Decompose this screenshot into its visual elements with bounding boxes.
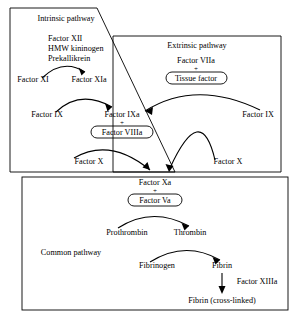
node-factor-viiia: Factor VIIIa bbox=[102, 128, 143, 137]
arrow-x-to-xa-extrinsic bbox=[170, 132, 215, 168]
intrinsic-pathway-label: Intrinsic pathway bbox=[37, 14, 95, 23]
arrow-tf-viia-to-ixa bbox=[145, 95, 260, 111]
node-tissue-factor: Tissue factor bbox=[175, 74, 217, 83]
node-hmw-kininogen: HMW kininogen bbox=[48, 44, 104, 53]
node-prekallikrein: Prekallikrein bbox=[48, 54, 90, 63]
node-factor-xia: Factor XIa bbox=[71, 75, 107, 84]
arrowhead-x-to-xa-intrinsic bbox=[143, 162, 151, 170]
extrinsic-pathway-label: Extrinsic pathway bbox=[167, 41, 227, 50]
node-fibrin: Fibrin bbox=[212, 261, 232, 270]
node-factor-x-extrinsic: Factor X bbox=[214, 157, 243, 166]
cascade-svg-canvas: Intrinsic pathway Extrinsic pathway Comm… bbox=[0, 0, 300, 322]
arrowhead-x-to-xa-extrinsic bbox=[166, 164, 174, 172]
common-pathway-label: Common pathway bbox=[41, 248, 102, 257]
node-factor-ix-extrinsic: Factor IX bbox=[242, 110, 274, 119]
node-factor-viia: Factor VIIa bbox=[177, 56, 215, 65]
node-fibrinogen: Fibrinogen bbox=[139, 261, 175, 270]
node-factor-x-intrinsic: Factor X bbox=[75, 157, 104, 166]
node-factor-xi: Factor XI bbox=[17, 75, 49, 84]
intrinsic-pathway-box bbox=[10, 8, 175, 172]
node-factor-xa: Factor Xa bbox=[139, 178, 172, 187]
arrowhead-fibrin-to-crosslinked bbox=[219, 286, 226, 294]
node-factor-ix-intrinsic: Factor IX bbox=[31, 110, 63, 119]
node-fibrin-cross-linked: Fibrin (cross-linked) bbox=[188, 296, 256, 305]
node-prothrombin: Prothrombin bbox=[106, 228, 147, 237]
node-factor-xiiia: Factor XIIIa bbox=[237, 277, 278, 286]
node-factor-ixa: Factor IXa bbox=[104, 110, 140, 119]
arrow-prothrombin-to-thrombin bbox=[118, 216, 189, 228]
node-thrombin: Thrombin bbox=[174, 228, 207, 237]
node-factor-xii: Factor XII bbox=[48, 34, 83, 43]
coagulation-cascade-diagram: Intrinsic pathway Extrinsic pathway Comm… bbox=[0, 0, 300, 322]
node-factor-va: Factor Va bbox=[139, 196, 171, 205]
